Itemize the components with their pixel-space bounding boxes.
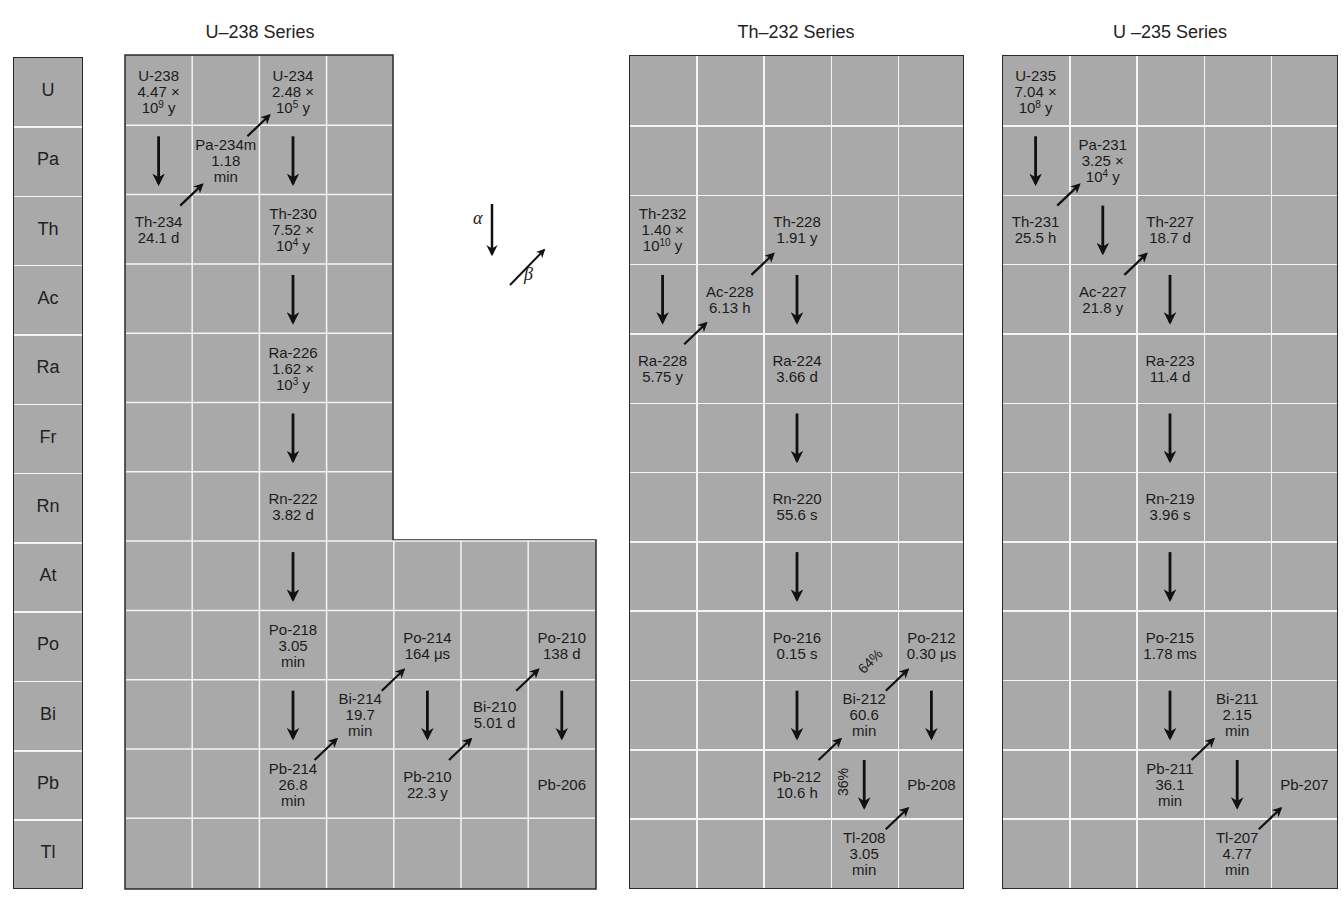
gridline: [1003, 333, 1337, 335]
nuclide-ra-228: Ra-2285.75 y: [618, 353, 708, 385]
gridline: [630, 472, 963, 474]
gridline: [630, 333, 963, 335]
nuclide-bi-212: Bi-21260.6min: [819, 691, 909, 739]
nuclide-th-231: Th-23125.5 h: [991, 214, 1081, 246]
nuclide-bi-214: Bi-21419.7min: [315, 691, 405, 739]
nuclide-th-234: Th-23424.1 d: [114, 214, 204, 246]
nuclide-po-212: Po-2120.30 μs: [886, 630, 976, 662]
nuclide-rn-219: Rn-2193.96 s: [1125, 491, 1215, 523]
nuclide-th-227: Th-22718.7 d: [1125, 214, 1215, 246]
gridline: [630, 610, 963, 612]
nuclide-bi-210: Bi-2105.01 d: [450, 699, 540, 731]
nuclide-u-238: U-2384.47 ×109 y: [114, 68, 204, 116]
gridline: [1003, 749, 1337, 751]
gridline: [1003, 818, 1337, 820]
nuclide-u-234: U-2342.48 ×105 y: [248, 68, 338, 116]
gridline: [630, 125, 963, 127]
nuclide-pb-210: Pb-21022.3 y: [382, 769, 472, 801]
gridline: [1003, 680, 1337, 682]
beta-legend-label: β: [524, 264, 533, 285]
gridline: [630, 680, 963, 682]
nuclide-bi-211: Bi-2112.15min: [1192, 691, 1282, 739]
gridline: [1003, 541, 1337, 543]
nuclide-tl-208: Tl-2083.05min: [819, 830, 909, 878]
gridline: [1003, 195, 1337, 197]
nuclide-pb-206: Pb-206: [517, 777, 607, 793]
nuclide-th-228: Th-2281.91 y: [752, 214, 842, 246]
nuclide-ac-227: Ac-22721.8 y: [1058, 284, 1148, 316]
gridline: [630, 403, 963, 405]
nuclide-po-216: Po-2160.15 s: [752, 630, 842, 662]
gridline: [630, 749, 963, 751]
th232-series-panel: [629, 55, 964, 889]
nuclide-rn-222: Rn-2223.82 d: [248, 491, 338, 523]
branch-percent-label: 36%: [835, 768, 851, 796]
nuclide-pa-231: Pa-2313.25 ×104 y: [1058, 137, 1148, 185]
nuclide-th-232: Th-2321.40 ×1010 y: [618, 206, 708, 254]
gridline: [1003, 610, 1337, 612]
nuclide-pb-211: Pb-21136.1min: [1125, 761, 1215, 809]
nuclide-ra-224: Ra-2243.66 d: [752, 353, 842, 385]
gridline: [630, 818, 963, 820]
gridline: [1003, 125, 1337, 127]
gridline: [630, 195, 963, 197]
gridline: [1003, 472, 1337, 474]
nuclide-po-214: Po-214164 μs: [382, 630, 472, 662]
nuclide-ra-226: Ra-2261.62 ×103 y: [248, 345, 338, 393]
gridline: [1003, 264, 1337, 266]
nuclide-pa-234m: Pa-234m1.18min: [181, 137, 271, 185]
nuclide-ra-223: Ra-22311.4 d: [1125, 353, 1215, 385]
alpha-legend-label: α: [473, 208, 482, 229]
gridline: [1003, 403, 1337, 405]
nuclide-pb-207: Pb-207: [1259, 777, 1344, 793]
nuclide-pb-208: Pb-208: [886, 777, 976, 793]
nuclide-u-235: U-2357.04 ×108 y: [991, 68, 1081, 116]
nuclide-tl-207: Tl-2074.77min: [1192, 830, 1282, 878]
nuclide-po-210: Po-210138 d: [517, 630, 607, 662]
nuclide-ac-228: Ac-2286.13 h: [685, 284, 775, 316]
gridline: [630, 541, 963, 543]
nuclide-th-230: Th-2307.52 ×104 y: [248, 206, 338, 254]
gridline: [630, 264, 963, 266]
nuclide-po-215: Po-2151.78 ms: [1125, 630, 1215, 662]
nuclide-pb-212: Pb-21210.6 h: [752, 769, 842, 801]
nuclide-rn-220: Rn-22055.6 s: [752, 491, 842, 523]
nuclide-pb-214: Pb-21426.8min: [248, 761, 338, 809]
nuclide-po-218: Po-2183.05min: [248, 622, 338, 670]
